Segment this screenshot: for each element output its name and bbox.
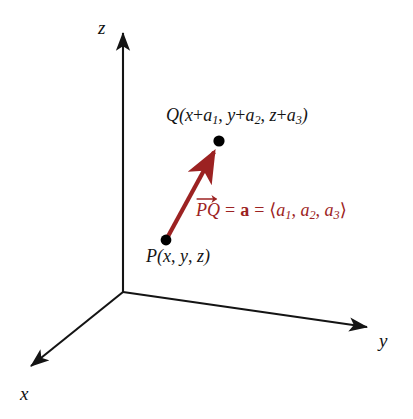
pq-overarrow-icon: [196, 194, 220, 202]
equals-sign-2: =: [254, 201, 264, 221]
q-label-x: x: [185, 105, 193, 125]
q-label-plus-1: +: [193, 105, 203, 125]
axis-label-x: x: [20, 384, 28, 403]
q-label-close: ): [302, 105, 308, 125]
point-label-p: P(x, y, z): [146, 247, 210, 267]
p-label-open: P(: [146, 246, 163, 266]
axis-label-z: z: [98, 18, 105, 37]
point-label-q: Q(x+a1, y+a2, z+a3): [166, 106, 308, 128]
vector-diagram-figure: z y x Q(x+a1, y+a2, z+a3) P(x, y, z) PQ …: [0, 0, 413, 419]
angle-bracket-close: ⟩: [340, 200, 347, 220]
equals-sign-1: =: [225, 201, 235, 221]
pq-letter-q: Q: [207, 200, 220, 220]
q-label-comma-2: ,: [261, 105, 270, 125]
pq-letter-p: P: [196, 200, 207, 220]
q-label-open: Q(: [166, 105, 185, 125]
p-label-comma-1: ,: [171, 246, 180, 266]
point-p-dot: [161, 235, 172, 246]
q-label-z: z: [270, 105, 277, 125]
p-label-y: y: [180, 246, 188, 266]
q-label-a-3: a: [287, 105, 296, 125]
p-label-z: z: [197, 246, 204, 266]
y-axis-line: [123, 292, 367, 327]
p-label-comma-2: ,: [188, 246, 197, 266]
p-label-close: ): [204, 246, 210, 266]
q-label-plus-2: +: [235, 105, 245, 125]
point-q-dot: [213, 135, 224, 146]
q-label-comma-1: ,: [218, 105, 227, 125]
q-label-a-1: a: [203, 105, 212, 125]
component-comma-1: ,: [291, 200, 296, 220]
vector-bold-a: a: [240, 201, 249, 221]
vector-equation-label: PQ = a = ⟨a1, a2, a3⟩: [196, 199, 347, 223]
x-axis-line: [31, 292, 123, 366]
vector-components: ⟨a1, a2, a3⟩: [269, 201, 346, 223]
component-comma-2: ,: [316, 200, 321, 220]
axis-label-y: y: [379, 331, 387, 350]
p-label-x: x: [163, 246, 171, 266]
vector-pq-symbol: PQ: [196, 199, 220, 221]
component-a-3: a: [325, 200, 334, 220]
component-a-1: a: [276, 200, 285, 220]
q-label-plus-3: +: [277, 105, 287, 125]
